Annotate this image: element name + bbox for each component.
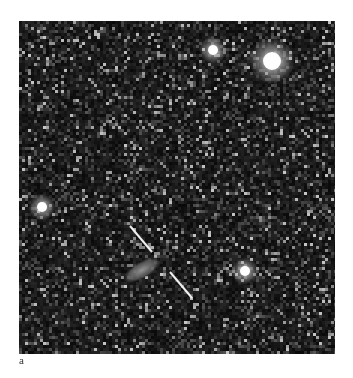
slit-line-segment-1 (130, 226, 152, 252)
galaxy-and-slit-overlay (19, 21, 335, 354)
panel-label: a (19, 354, 24, 366)
galaxy (118, 251, 165, 289)
star-field-image (19, 21, 335, 354)
slit-line-segment-2 (170, 272, 192, 298)
